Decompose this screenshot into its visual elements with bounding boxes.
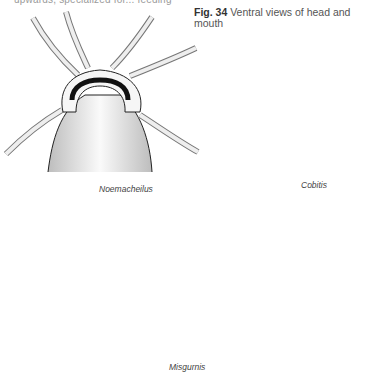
noemacheilus-drawing (6, 12, 198, 172)
label-cobitis: Cobitis (301, 180, 327, 190)
label-misgurnis: Misgurnis (169, 362, 205, 372)
label-noemacheilus: Noemacheilus (99, 184, 153, 194)
